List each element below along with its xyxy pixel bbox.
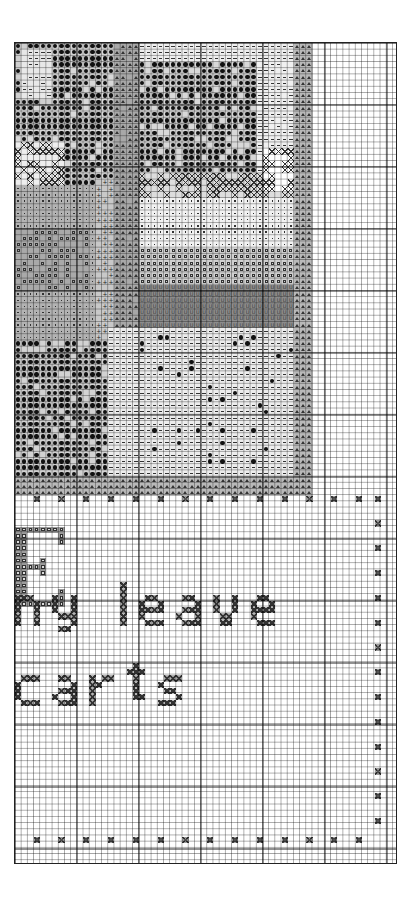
border-marker [34,496,40,502]
lettering-stitch [176,694,182,700]
lower-scattered-dots [164,334,170,340]
border-marker [375,620,381,626]
border-marker [375,719,381,725]
lettering-stitch [108,675,114,681]
lettering-stitch [226,620,232,626]
lettering-stitch [34,620,40,626]
border-marker [375,520,381,526]
lower-scattered-dots [220,458,226,464]
lettering-stitch [269,607,275,613]
border-marker [375,694,381,700]
lower-scattered-dots [207,421,213,427]
lettering-stitch [139,694,145,700]
lower-scattered-dots [158,365,164,371]
border-marker [158,837,164,843]
lower-scattered-dots [139,347,145,353]
letter-e-stitch [21,601,27,607]
lower-scattered-dots [207,458,213,464]
letter-e-stitch [40,558,46,564]
border-marker [58,496,64,502]
border-marker [108,837,114,843]
lower-scattered-dots [151,446,157,452]
border-marker [83,837,89,843]
lettering-stitch [176,675,182,681]
border-marker [232,496,238,502]
border-marker [182,837,188,843]
cross-stitch-chart: Cross-stitch pattern chart (partial page… [14,42,397,864]
lettering-stitch [65,626,71,632]
letter-e-stitch [58,589,64,595]
border-marker [158,496,164,502]
lower-scattered-dots [220,427,226,433]
border-marker [375,644,381,650]
lower-scattered-dots [263,446,269,452]
border-marker [83,496,89,502]
lettering-stitch [139,669,145,675]
lettering-stitch [269,620,275,626]
lower-scattered-dots [176,427,182,433]
border-marker [375,744,381,750]
lower-scattered-dots [151,427,157,433]
lettering-stitch [120,620,126,626]
lower-scattered-dots [269,378,275,384]
lower-scattered-dots [176,440,182,446]
border-marker [108,496,114,502]
border-marker [375,669,381,675]
letter-e-stitch [58,601,64,607]
left-lower-sq [83,285,89,291]
lower-scattered-dots [207,396,213,402]
border-marker [306,837,312,843]
lettering-stitch [34,675,40,681]
border-marker [58,837,64,843]
lower-scattered-dots [207,384,213,390]
border-marker [182,496,188,502]
lower-scattered-dots [189,365,195,371]
border-marker [331,837,337,843]
lettering-stitch [232,607,238,613]
border-marker [375,595,381,601]
lower-scattered-dots [251,427,257,433]
lower-scattered-dots [251,334,257,340]
lettering-stitch [15,620,21,626]
lettering-stitch [195,620,201,626]
border-marker [375,496,381,502]
lettering-stitch [89,700,95,706]
letter-e-stitch [58,539,64,545]
border-marker [282,837,288,843]
lower-scattered-dots [244,365,250,371]
lower-scattered-dots [232,390,238,396]
border-marker [375,793,381,799]
border-marker [133,837,139,843]
lower-scattered-dots [220,440,226,446]
lower-scattered-dots [195,427,201,433]
border-marker [207,496,213,502]
border-marker [375,818,381,824]
border-marker [257,837,263,843]
border-marker [375,545,381,551]
border-marker [375,768,381,774]
border-marker [331,496,337,502]
lower-scattered-dots [251,458,257,464]
lower-scattered-dots [244,341,250,347]
lettering-stitch [158,607,164,613]
border-marker [356,837,362,843]
border-marker [257,496,263,502]
lower-scattered-dots [232,341,238,347]
lettering-stitch [170,700,176,706]
lower-scattered-dots [275,353,281,359]
letter-e-stitch [58,595,64,601]
letter-e-stitch [40,570,46,576]
border-marker [306,496,312,502]
border-marker [375,570,381,576]
lettering-stitch [71,620,77,626]
border-marker [133,496,139,502]
border-marker [207,837,213,843]
border-marker [232,837,238,843]
lettering-stitch [71,700,77,706]
border-marker [356,496,362,502]
border-marker [34,837,40,843]
border-marker [282,496,288,502]
lettering-stitch [158,620,164,626]
lower-scattered-dots [220,396,226,402]
lettering-stitch [96,682,102,688]
